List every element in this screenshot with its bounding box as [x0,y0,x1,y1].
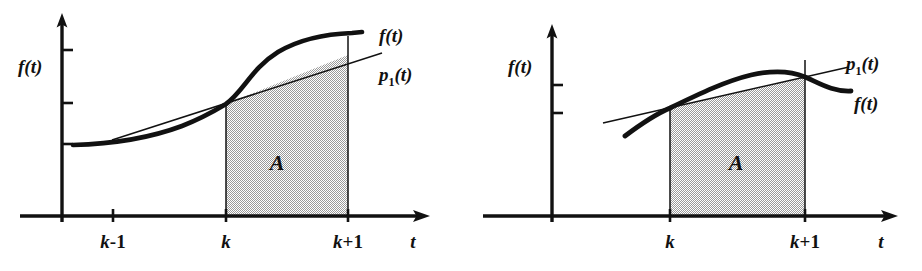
x-tick-label-k-plus-1: k+1 [790,231,820,252]
line-label-p1: p1(t) [844,53,879,78]
y-axis [547,24,558,222]
x-tick-label-k: k [665,231,675,252]
svg-text:k: k [665,231,675,252]
y-axis-label: f(t) [508,56,532,78]
area-label: A [727,150,744,175]
panel-concave-curve: f(t) p1(t) f(t) A k k+1 t [461,0,922,271]
x-tick-label-k: k [221,231,231,252]
svg-text:p1(t): p1(t) [844,53,879,78]
area-label: A [268,150,285,175]
y-axis-label: f(t) [18,56,42,78]
line-label-p1-base: p [377,64,389,85]
svg-text:k: k [221,231,231,252]
curve-label-f: f(t) [379,25,403,47]
tick-base: k [665,231,675,252]
line-label-p1-tail: (t) [395,64,413,86]
tick-base: k [221,231,231,252]
line-label-p1: p1(t) [377,64,412,89]
svg-text:p1(t): p1(t) [377,64,412,89]
x-tick-label-k-minus-1: k-1 [100,231,125,252]
tick-tail: +1 [800,231,820,252]
shaded-area-region [226,55,348,216]
figure-root: f(t) f(t) p1(t) A k-1 k k+1 t [0,0,922,271]
svg-text:k+1: k+1 [790,231,820,252]
curve-label-f: f(t) [854,93,878,115]
tick-base: k [100,231,110,252]
y-axis [57,13,68,222]
line-label-p1-tail: (t) [862,53,880,75]
tick-base: k [333,231,343,252]
line-label-p1-base: p [844,53,856,74]
tick-tail: +1 [343,231,363,252]
tick-base: k [790,231,800,252]
x-axis-label: t [410,231,416,252]
svg-text:k-1: k-1 [100,231,125,252]
tick-tail: -1 [110,231,126,252]
x-axis-label: t [878,231,884,252]
panel-convex-curve: f(t) f(t) p1(t) A k-1 k k+1 t [0,0,461,271]
svg-text:k+1: k+1 [333,231,363,252]
x-tick-label-k-plus-1: k+1 [333,231,363,252]
